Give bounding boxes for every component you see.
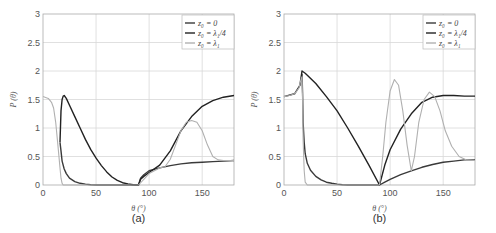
x-tick-label: 0: [281, 188, 286, 198]
y-tick-label: 2.5: [27, 38, 40, 48]
legend-entry-label: z₀ = λ₁/4: [438, 29, 467, 38]
y-tick-label: 0.5: [268, 152, 281, 162]
y-axis-label: P (θ): [9, 91, 18, 108]
y-tick-label: 1.5: [268, 95, 281, 105]
x-tick-label: 50: [332, 188, 342, 198]
legend-entry-label: z₀ = 0: [438, 19, 458, 28]
legend-entry-label: z₀ = λ₁: [438, 39, 461, 48]
figure: 05010015000.511.522.53θ (°)P (θ)(a)z₀ = …: [0, 0, 496, 233]
y-axis-label: P (θ): [250, 91, 259, 108]
series-line-0: [302, 74, 475, 185]
y-tick-label: 0: [276, 180, 281, 190]
y-tick-label: 3: [35, 9, 40, 19]
x-tick-label: 150: [436, 188, 451, 198]
chart-panel-a: 05010015000.511.522.53θ (°)P (θ)(a)z₀ = …: [9, 9, 234, 224]
legend-entry-label: z₀ = λ₁/4: [197, 29, 226, 38]
chart-panel-b: 05010015000.511.522.53θ (°)P (θ)(b)z₀ = …: [250, 9, 475, 224]
y-tick-label: 1: [35, 123, 40, 133]
y-tick-label: 2.5: [268, 38, 281, 48]
y-tick-label: 1: [276, 123, 281, 133]
series-line-0: [60, 142, 234, 185]
y-tick-label: 0: [35, 180, 40, 190]
y-tick-label: 0.5: [27, 152, 40, 162]
y-tick-label: 1.5: [27, 95, 40, 105]
y-tick-label: 2: [35, 66, 40, 76]
x-tick-label: 100: [383, 188, 398, 198]
x-tick-label: 50: [91, 188, 101, 198]
x-tick-label: 150: [195, 188, 210, 198]
x-tick-label: 100: [142, 188, 157, 198]
y-tick-label: 3: [276, 9, 281, 19]
legend-entry-label: z₀ = λ₁: [197, 39, 220, 48]
x-tick-label: 0: [40, 188, 45, 198]
series-line-2: [284, 77, 475, 185]
legend: z₀ = 0z₀ = λ₁/4z₀ = λ₁: [423, 15, 475, 49]
legend: z₀ = 0z₀ = λ₁/4z₀ = λ₁: [182, 15, 234, 49]
y-tick-label: 2: [276, 66, 281, 76]
panel-caption: (b): [373, 212, 386, 224]
panel-caption: (a): [132, 212, 145, 224]
legend-entry-label: z₀ = 0: [197, 19, 217, 28]
